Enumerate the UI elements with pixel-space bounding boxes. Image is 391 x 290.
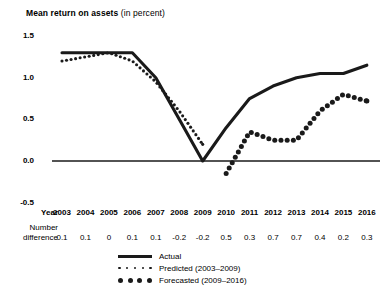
legend-dot-icon [118,278,123,283]
y-axis-tick-label: 1.5 [8,31,34,40]
plot-svg [0,0,391,205]
series-predicted-dots [60,51,204,145]
legend-item-predicted: Predicted (2003–2009) [118,262,240,274]
legend-label-actual: Actual [159,252,181,261]
y-axis-tick-label: 1.0 [8,73,34,82]
chart-figure: Mean return on assets (in percent) 1.51.… [0,0,391,290]
legend-dots-small-icon [118,263,152,273]
data-table: Year Number difference 20032004200520062… [0,205,391,250]
legend-dot-icon [128,278,133,283]
legend-swatch-predicted-icon [118,263,152,273]
legend-dot-icon [126,267,129,270]
diff-row-label-line1: Number [6,223,58,232]
legend-solid-line-icon [118,255,152,258]
y-axis-tick-label: 0.5 [8,114,34,123]
legend-dot-icon [149,267,152,270]
legend-dot-icon [147,278,152,283]
legend-dot-icon [137,278,142,283]
y-axis-tick-label: 0.0 [8,156,34,165]
legend-dot-icon [134,267,137,270]
legend-label-predicted: Predicted (2003–2009) [159,264,240,273]
legend-dot-icon [142,267,145,270]
legend-swatch-actual-icon [118,251,152,261]
legend-swatch-forecasted-icon [118,275,152,285]
legend-item-actual: Actual [118,250,181,262]
series-actual-line [62,53,367,161]
legend: ActualPredicted (2003–2009)Forecasted (2… [0,250,391,290]
legend-dot-icon [118,267,121,270]
plot-area [0,0,391,205]
legend-item-forecasted: Forecasted (2009–2016) [118,274,247,286]
legend-label-forecasted: Forecasted (2009–2016) [159,276,247,285]
number-difference-value: 0.3 [353,233,381,242]
year-label: 2016 [353,208,381,217]
legend-dots-big-icon [118,275,152,285]
